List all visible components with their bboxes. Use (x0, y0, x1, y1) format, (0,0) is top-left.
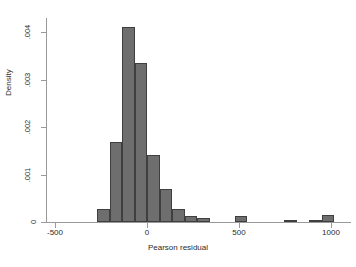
y-tick-mark (41, 175, 46, 176)
histogram-figure: 0.001.002.003.004 -50005001000 Density P… (0, 0, 356, 267)
histogram-bar (110, 142, 122, 222)
histogram-bar (235, 216, 247, 222)
histogram-bar (147, 155, 159, 222)
x-tick-label: 0 (127, 228, 167, 238)
histogram-bar (309, 220, 321, 222)
histogram-bar (197, 218, 209, 222)
histogram-bar (284, 220, 296, 222)
y-tick-label: 0 (6, 212, 36, 232)
y-tick-label: .004 (6, 22, 36, 42)
y-tick-mark (41, 32, 46, 33)
histogram-bar (122, 27, 134, 222)
y-tick-label: .001 (6, 165, 36, 185)
histogram-bar (185, 216, 197, 222)
histogram-bar (97, 209, 109, 222)
x-tick-label: 1000 (311, 228, 351, 238)
y-tick-label: .002 (6, 117, 36, 137)
x-tick-label: -500 (35, 228, 75, 238)
histogram-bar (322, 215, 334, 222)
x-tick-label: 500 (219, 228, 259, 238)
plot-area (46, 18, 351, 222)
histogram-bar (160, 189, 172, 222)
histogram-bar (172, 209, 184, 222)
x-axis-title: Pearson residual (0, 243, 356, 252)
x-axis-line (46, 222, 351, 223)
y-tick-mark (41, 80, 46, 81)
histogram-bar (135, 63, 147, 222)
y-tick-mark (41, 127, 46, 128)
y-axis-title: Density (4, 69, 13, 96)
